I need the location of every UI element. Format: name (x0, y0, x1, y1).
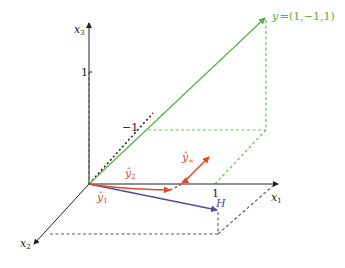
x2-axis-label: x2 (20, 238, 31, 251)
neg-x2-dotted-line (89, 113, 153, 184)
x3-tick-label: 1 (81, 67, 88, 78)
x3-axis-label: x3 (74, 24, 85, 37)
neg-one-tick-label: −1 (122, 122, 138, 133)
h-vector (89, 184, 217, 210)
h-projection-lines (50, 184, 275, 234)
y-prime-label: y′=(1,−1,1) (272, 11, 335, 22)
x1-axis-label: x1 (271, 192, 282, 205)
y-hat-2-label: ŷ2 (125, 168, 136, 181)
x2-axis (34, 184, 89, 244)
y-hat-1-label: ŷ1 (97, 192, 108, 205)
diagram-canvas (0, 0, 345, 268)
y-hat-inf-label: ŷ∞ (182, 152, 194, 165)
h-label: H (216, 198, 226, 209)
